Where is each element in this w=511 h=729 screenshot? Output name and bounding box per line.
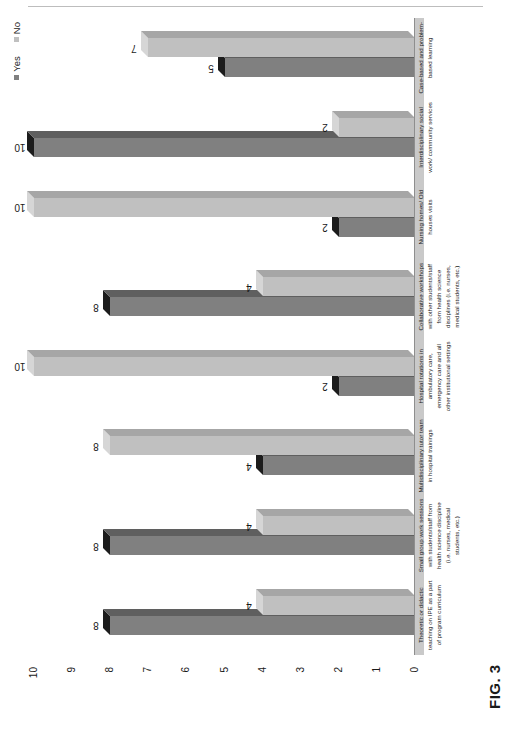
bar-value-label: 8: [93, 302, 99, 312]
bar-side-face: [141, 31, 415, 38]
bar-no[interactable]: [339, 118, 415, 137]
bar-yes[interactable]: [339, 218, 415, 237]
bar-value-label: 8: [93, 441, 99, 451]
legend-item-yes: Yes: [12, 56, 22, 80]
legend-label-no: No: [12, 22, 22, 34]
bar-slot: 2: [34, 118, 415, 137]
bar-no[interactable]: [34, 357, 415, 376]
bar-face: [263, 277, 415, 296]
bar-slot: 4: [34, 277, 415, 296]
bar-value-label: 8: [93, 541, 99, 551]
category-label: Multidisciplinary tutor team in hospital…: [417, 416, 481, 496]
axis-tick-label: 7: [143, 667, 153, 673]
category-labels: Theoretic or didactic teaching on IPE as…: [417, 18, 481, 655]
bar-value-label: 10: [14, 142, 25, 152]
bar-value-label: 4: [246, 521, 252, 531]
bar-side-face: [27, 191, 415, 198]
bar-group: 102: [34, 98, 415, 178]
bar-face: [34, 138, 415, 157]
bar-yes[interactable]: [110, 297, 415, 316]
bar-value-label: 8: [93, 620, 99, 630]
bar-yes[interactable]: [263, 456, 415, 475]
bar-side-face: [256, 509, 415, 516]
legend-swatch-yes: [14, 75, 19, 80]
bar-face: [110, 536, 415, 555]
bar-value-label: 2: [322, 222, 328, 232]
bar-yes[interactable]: [339, 377, 415, 396]
bar-no[interactable]: [263, 516, 415, 535]
bar-side-face: [256, 270, 415, 277]
bar-no[interactable]: [148, 38, 415, 57]
bar-group: 48: [34, 416, 415, 496]
plot-area: 109876543210 8484482108421010257: [34, 18, 415, 655]
bar-yes[interactable]: [110, 536, 415, 555]
bar-yes[interactable]: [110, 616, 415, 635]
figure-caption: FIG. 3: [486, 664, 503, 709]
bar-pair: 210: [34, 337, 415, 417]
bar-slot: 2: [34, 218, 415, 237]
bar-slot: 4: [34, 456, 415, 475]
axis-tick-label: 0: [410, 667, 420, 673]
bar-value-label: 4: [246, 600, 252, 610]
category-label: Case-based and problem-based learning: [417, 18, 481, 98]
bar-pair: 102: [34, 98, 415, 178]
axis-tick-label: 3: [296, 667, 306, 673]
bar-no[interactable]: [263, 277, 415, 296]
bar-side-face: [103, 429, 415, 436]
bar-slot: 5: [34, 58, 415, 77]
bar-face: [225, 58, 416, 77]
bar-group: 210: [34, 337, 415, 417]
bar-value-label: 10: [14, 202, 25, 212]
bar-slot: 8: [34, 616, 415, 635]
axis-baseline: [414, 18, 415, 655]
bar-face: [339, 377, 415, 396]
category-label: Nursing homes/ Old houses visits: [417, 177, 481, 257]
category-label: Theoretic or didactic teaching on IPE as…: [417, 575, 481, 655]
bar-group: 84: [34, 575, 415, 655]
legend-swatch-no: [14, 37, 19, 42]
rotated-figure-wrapper: Yes No 109876543210 8484482108421010257 …: [0, 0, 511, 729]
bar-value-label: 4: [246, 461, 252, 471]
category-label: Hospital rotations in ambulatory care, e…: [417, 337, 481, 417]
chart-legend: Yes No: [12, 22, 22, 80]
bar-side-face: [256, 589, 415, 596]
bar-face: [34, 198, 415, 217]
bar-pair: 48: [34, 416, 415, 496]
bar-face: [110, 436, 415, 455]
bar-slot: 2: [34, 377, 415, 396]
bar-face: [263, 456, 415, 475]
bar-pair: 210: [34, 177, 415, 257]
patent-figure-page: Yes No 109876543210 8484482108421010257 …: [0, 0, 511, 729]
bar-face: [339, 118, 415, 137]
bar-slot: 8: [34, 436, 415, 455]
bar-no[interactable]: [110, 436, 415, 455]
bar-group: 84: [34, 257, 415, 337]
bar-no[interactable]: [34, 198, 415, 217]
axis-tick-label: 9: [67, 667, 77, 673]
bar-slot: 7: [34, 38, 415, 57]
bar-face: [263, 596, 415, 615]
axis-tick-label: 2: [334, 667, 344, 673]
bar-yes[interactable]: [34, 138, 415, 157]
category-label: Collaborative workshops with other stude…: [417, 257, 481, 337]
bar-value-label: 7: [132, 43, 138, 53]
bar-no[interactable]: [263, 596, 415, 615]
bar-pair: 84: [34, 496, 415, 576]
plot-inner: 109876543210 8484482108421010257: [34, 18, 415, 655]
bar-side-face: [332, 111, 415, 118]
bar-pair: 84: [34, 257, 415, 337]
bar-face: [339, 218, 415, 237]
bar-groups: 8484482108421010257: [34, 18, 415, 655]
bar-face: [110, 297, 415, 316]
bar-side-face: [27, 350, 415, 357]
bar-value-label: 10: [14, 361, 25, 371]
axis-tick-label: 4: [258, 667, 268, 673]
bar-value-label: 4: [246, 282, 252, 292]
bar-slot: 10: [34, 138, 415, 157]
category-label: Interdisciplinary social work/ community…: [417, 98, 481, 178]
bar-yes[interactable]: [225, 58, 416, 77]
bar-slot: 8: [34, 297, 415, 316]
bar-face: [148, 38, 415, 57]
bar-value-label: 2: [322, 381, 328, 391]
bar-value-label: 5: [208, 63, 214, 73]
